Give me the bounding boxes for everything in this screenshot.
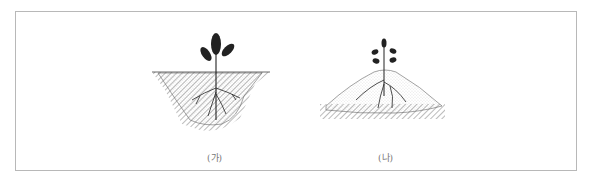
panel-b-label: (나) xyxy=(378,151,393,164)
panel-b-mound-planting xyxy=(320,39,445,120)
planting-diagram xyxy=(0,0,594,182)
panel-a-label: (가) xyxy=(207,151,222,164)
panel-a-pit-planting xyxy=(152,33,270,131)
